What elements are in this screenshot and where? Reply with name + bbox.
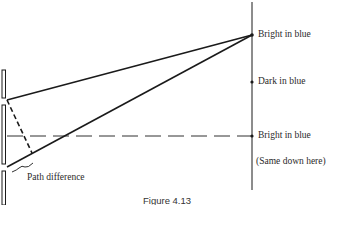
ray-upper-slit: [7, 35, 252, 100]
label-bright-top: Bright in blue: [258, 30, 311, 40]
ray-lower-slit: [7, 35, 252, 167]
bright-point-center-dot: [250, 134, 253, 137]
label-same-down-here: (Same down here): [256, 157, 326, 167]
barrier-top-segment: [2, 70, 6, 98]
barrier-bottom-segment: [2, 171, 6, 205]
figure-caption: Figure 4.13: [143, 196, 191, 205]
label-bright-center: Bright in blue: [258, 131, 311, 141]
dark-point-dot: [250, 80, 253, 83]
path-difference-brace: [12, 163, 33, 172]
label-dark: Dark in blue: [258, 77, 306, 87]
label-path-difference: Path difference: [27, 173, 85, 183]
barrier-middle-segment: [2, 105, 6, 164]
bright-point-top-dot: [250, 33, 254, 37]
path-difference-construction-line: [7, 100, 32, 153]
slit-barrier: [2, 70, 6, 205]
